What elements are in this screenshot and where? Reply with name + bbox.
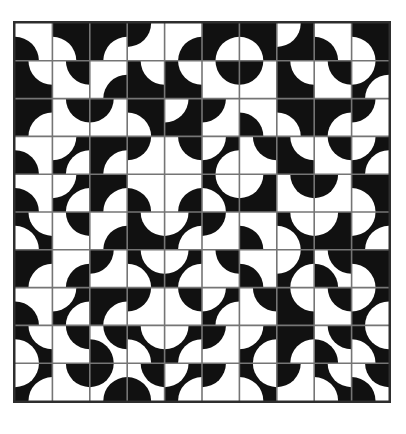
quilt-tile — [52, 325, 89, 363]
quilt-tile — [277, 325, 314, 363]
quilt-tile — [277, 174, 314, 212]
quilt-tile — [277, 363, 314, 401]
quilt-tile — [15, 136, 52, 174]
quilt-tile — [52, 363, 89, 401]
quilt-tile — [202, 136, 239, 174]
quilt-tile — [127, 61, 164, 99]
quilt-tile — [352, 250, 389, 288]
quilt-tile — [90, 61, 127, 99]
quilt-tile — [314, 99, 351, 137]
quilt-tile — [352, 325, 389, 363]
quilt-tile — [314, 136, 351, 174]
quilt-tile — [165, 61, 202, 99]
quilt-tile — [127, 325, 164, 363]
quilt-tile — [165, 325, 202, 363]
quilt-tile — [352, 212, 389, 250]
quilt-tile — [277, 99, 314, 137]
quilt-tile — [90, 136, 127, 174]
quilt-tile — [352, 363, 389, 401]
quilt-tile — [15, 325, 52, 363]
quilt-tile — [239, 23, 276, 61]
quilt-tile — [352, 99, 389, 137]
quilt-tile — [202, 212, 239, 250]
quilt-pattern — [13, 21, 391, 403]
quilt-tile — [15, 99, 52, 137]
quilt-tile — [239, 99, 276, 137]
pattern-page — [0, 0, 406, 434]
quilt-tile — [165, 99, 202, 137]
quilt-tile — [90, 363, 127, 401]
quilt-tile — [314, 325, 351, 363]
quilt-tile — [202, 250, 239, 288]
quilt-tile — [90, 250, 127, 288]
quilt-tile — [314, 288, 351, 326]
quilt-tile — [202, 174, 239, 212]
quilt-svg — [13, 21, 391, 403]
quilt-tile — [239, 250, 276, 288]
quilt-tile — [277, 136, 314, 174]
quilt-tile — [202, 99, 239, 137]
quilt-tile — [202, 325, 239, 363]
quilt-tile — [165, 136, 202, 174]
quilt-tile — [15, 363, 52, 401]
quilt-tile — [352, 174, 389, 212]
quilt-tile — [202, 23, 239, 61]
quilt-tile — [239, 174, 276, 212]
quilt-tile — [90, 174, 127, 212]
quilt-tile — [52, 250, 89, 288]
quilt-tile — [52, 99, 89, 137]
quilt-tile — [314, 174, 351, 212]
quilt-tile — [352, 23, 389, 61]
quilt-tile — [165, 23, 202, 61]
quilt-tile — [277, 288, 314, 326]
quilt-tile — [239, 363, 276, 401]
quilt-tile — [127, 174, 164, 212]
quilt-tile — [127, 288, 164, 326]
quilt-tile — [277, 250, 314, 288]
quilt-tile — [165, 212, 202, 250]
quilt-tile — [165, 250, 202, 288]
quilt-tile — [239, 288, 276, 326]
quilt-tile — [90, 23, 127, 61]
quilt-tile — [15, 250, 52, 288]
quilt-tile — [239, 136, 276, 174]
quilt-tile — [90, 99, 127, 137]
quilt-tile — [352, 136, 389, 174]
quilt-tile — [52, 61, 89, 99]
quilt-tile — [127, 250, 164, 288]
quilt-tile — [165, 363, 202, 401]
quilt-tile — [15, 174, 52, 212]
quilt-tile — [127, 136, 164, 174]
quilt-tile — [239, 61, 276, 99]
quilt-tile — [202, 61, 239, 99]
quilt-tile — [15, 61, 52, 99]
quilt-tile — [127, 363, 164, 401]
quilt-tile — [314, 61, 351, 99]
quilt-tile — [239, 212, 276, 250]
quilt-tile — [127, 212, 164, 250]
quilt-tile — [52, 212, 89, 250]
quilt-tile — [352, 61, 389, 99]
quilt-tile — [127, 23, 164, 61]
quilt-tile — [52, 174, 89, 212]
quilt-tile — [314, 250, 351, 288]
quilt-tile — [52, 23, 89, 61]
quilt-tile — [52, 136, 89, 174]
quilt-tile — [202, 288, 239, 326]
quilt-tile — [314, 212, 351, 250]
quilt-tile — [239, 325, 276, 363]
quilt-tile — [314, 363, 351, 401]
quilt-tile — [90, 325, 127, 363]
quilt-tile — [15, 212, 52, 250]
quilt-tile — [277, 61, 314, 99]
quilt-tile — [90, 288, 127, 326]
quilt-tile — [165, 288, 202, 326]
quilt-tile — [314, 23, 351, 61]
quilt-tile — [277, 23, 314, 61]
quilt-tile — [90, 212, 127, 250]
quilt-tile — [52, 288, 89, 326]
quilt-tile — [165, 174, 202, 212]
quilt-tile — [352, 288, 389, 326]
quilt-tile — [15, 288, 52, 326]
quilt-tile — [277, 212, 314, 250]
